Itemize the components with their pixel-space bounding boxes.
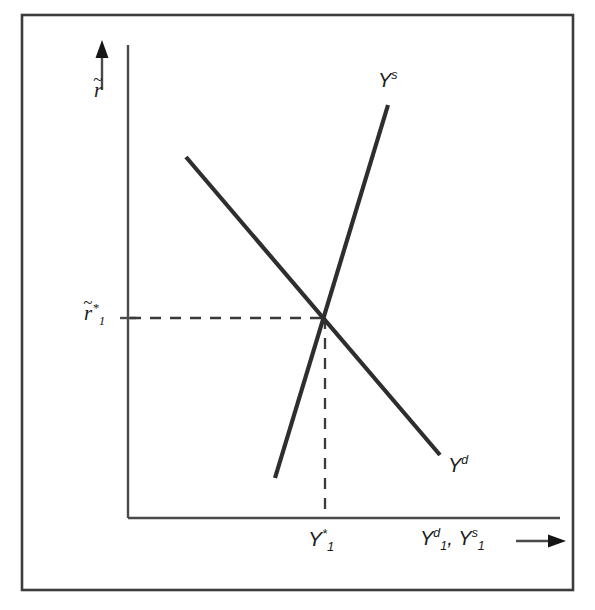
x-axis-label-supply: Y	[458, 527, 471, 549]
demand-curve-label-text: Y	[448, 454, 461, 476]
supply-curve-label-text: Y	[378, 69, 391, 91]
x-axis-label-demand: Y	[420, 527, 433, 549]
x-axis-label-separator: ,	[447, 527, 453, 549]
right-arrow-icon	[516, 535, 566, 548]
equilibrium-output-label: Y*1	[308, 528, 334, 549]
tilde-accent: ~	[83, 294, 92, 311]
x-axis-label-supply-sub: 1	[478, 539, 485, 553]
supply-curve	[275, 105, 388, 478]
figure-container: ~ r ~ r *1 Ys Yd Y*1 Yd1, Ys1	[0, 0, 595, 610]
demand-curve-label-sup: d	[461, 453, 468, 467]
demand-curve-label: Yd	[448, 455, 468, 475]
x-axis-label: Yd1, Ys1	[420, 528, 485, 548]
supply-curve-label: Ys	[378, 70, 398, 90]
equilibrium-rate-label: ~ r *1	[84, 303, 105, 324]
demand-curve	[186, 157, 440, 455]
y-axis-label: ~ r	[94, 80, 102, 101]
tilde-accent: ~	[93, 71, 102, 88]
equilibrium-output-symbol: Y	[308, 527, 322, 550]
equilibrium-output-index: 1	[327, 539, 334, 554]
equilibrium-rate-index: 1	[99, 313, 106, 328]
supply-curve-label-sup: s	[391, 68, 397, 82]
